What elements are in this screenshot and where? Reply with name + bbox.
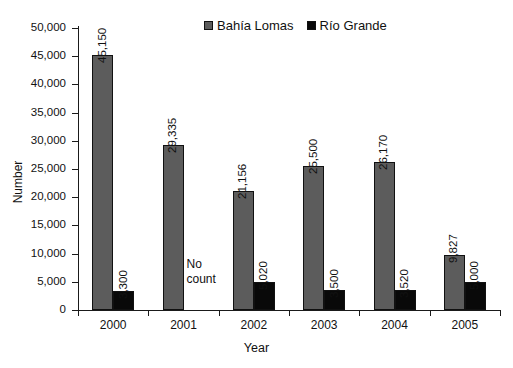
x-tick-mark xyxy=(289,310,290,316)
legend-swatch-black-icon xyxy=(307,21,316,30)
bar-2001-series-1 xyxy=(163,145,184,310)
y-tick-mark xyxy=(72,113,78,114)
bar-2004-series-1 xyxy=(374,162,395,310)
legend-label-bahia-lomas: Bahía Lomas xyxy=(217,18,294,33)
bar-chart: Bahía Lomas Río Grande Number Year 05,00… xyxy=(0,0,513,368)
x-tick-mark xyxy=(430,310,431,316)
y-tick-label: 35,000 xyxy=(8,107,66,118)
bar-2003-series-1 xyxy=(303,166,324,310)
y-tick-label: 15,000 xyxy=(8,219,66,230)
bar-2000-series-1 xyxy=(92,55,113,310)
y-tick-mark xyxy=(72,28,78,29)
y-axis-line xyxy=(78,26,79,311)
bar-value-label-2000-series-1: 45,150 xyxy=(97,28,108,63)
bar-value-label-2003-series-1: 25,500 xyxy=(308,139,319,174)
legend-entry-bahia-lomas: Bahía Lomas xyxy=(204,18,294,33)
bar-value-label-2002-series-1: 21,156 xyxy=(237,163,248,198)
y-tick-label: 45,000 xyxy=(8,50,66,61)
bar-value-label-2005-series-2: 5,000 xyxy=(469,261,480,290)
y-tick-label: 40,000 xyxy=(8,78,66,89)
y-tick-mark xyxy=(72,197,78,198)
y-tick-mark xyxy=(72,282,78,283)
bar-value-label-2002-series-2: 5,020 xyxy=(258,261,269,290)
y-tick-label: 10,000 xyxy=(8,248,66,259)
y-axis-title: Number xyxy=(11,142,25,222)
y-tick-label: 50,000 xyxy=(8,22,66,33)
bar-value-label-2000-series-2: 3,300 xyxy=(118,271,129,300)
x-tick-mark xyxy=(219,310,220,316)
x-tick-label-2004: 2004 xyxy=(355,318,435,332)
y-tick-mark xyxy=(72,56,78,57)
chart-legend: Bahía Lomas Río Grande xyxy=(204,18,387,33)
y-tick-mark xyxy=(72,84,78,85)
x-tick-label-2001: 2001 xyxy=(144,318,224,332)
bar-value-label-2004-series-1: 26,170 xyxy=(378,135,389,170)
x-tick-mark xyxy=(359,310,360,316)
y-tick-mark xyxy=(72,141,78,142)
x-tick-label-2005: 2005 xyxy=(425,318,505,332)
y-tick-mark xyxy=(72,254,78,255)
y-tick-label: 0 xyxy=(8,304,66,315)
bar-2002-series-1 xyxy=(233,191,254,310)
y-tick-label: 5,000 xyxy=(8,276,66,287)
bar-value-label-2001-series-1: 29,335 xyxy=(167,117,178,152)
y-tick-mark xyxy=(72,225,78,226)
bar-value-label-2005-series-1: 9,827 xyxy=(448,234,459,263)
y-tick-label: 25,000 xyxy=(8,163,66,174)
y-tick-mark xyxy=(72,169,78,170)
legend-label-rio-grande: Río Grande xyxy=(320,18,387,33)
y-tick-label: 20,000 xyxy=(8,191,66,202)
annotation-no-count: No count xyxy=(187,257,216,287)
x-tick-mark xyxy=(148,310,149,316)
x-tick-label-2002: 2002 xyxy=(214,318,294,332)
x-tick-mark xyxy=(500,310,501,316)
y-tick-label: 30,000 xyxy=(8,135,66,146)
x-tick-mark xyxy=(78,310,79,316)
x-tick-label-2003: 2003 xyxy=(284,318,364,332)
x-tick-label-2000: 2000 xyxy=(73,318,153,332)
x-axis-title: Year xyxy=(0,341,513,355)
legend-entry-rio-grande: Río Grande xyxy=(307,18,387,33)
bar-value-label-2004-series-2: 3,520 xyxy=(399,269,410,298)
legend-swatch-gray-icon xyxy=(204,21,213,30)
bar-value-label-2003-series-2: 3,500 xyxy=(329,269,340,298)
